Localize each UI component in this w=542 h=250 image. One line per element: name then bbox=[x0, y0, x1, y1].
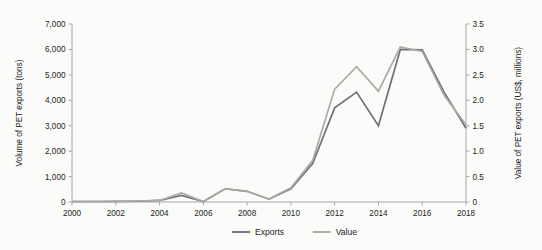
y2-tick-label: 2.0 bbox=[473, 96, 485, 105]
series-line-value bbox=[72, 47, 466, 202]
y2-axis-title: Value of PET exports (US$, millions) bbox=[514, 47, 523, 179]
x-tick-label: 2018 bbox=[457, 209, 476, 218]
y-tick-label: 1,000 bbox=[45, 173, 66, 182]
y-tick-label: 3,000 bbox=[45, 122, 66, 131]
y-tick-label: 4,000 bbox=[45, 96, 66, 105]
x-tick-label: 2014 bbox=[369, 209, 388, 218]
legend-label-value: Value bbox=[336, 227, 358, 237]
x-tick-label: 2010 bbox=[282, 209, 301, 218]
x-tick-label: 2006 bbox=[194, 209, 213, 218]
y2-tick-label: 3.0 bbox=[473, 45, 485, 54]
right-axis: 00.51.01.52.02.53.03.5 bbox=[466, 20, 484, 207]
y-tick-label: 6,000 bbox=[45, 45, 66, 54]
x-tick-label: 2004 bbox=[150, 209, 169, 218]
x-tick-label: 2016 bbox=[413, 209, 432, 218]
y2-tick-label: 1.5 bbox=[473, 122, 485, 131]
y2-tick-label: 1.0 bbox=[473, 147, 485, 156]
legend-label-exports: Exports bbox=[255, 227, 284, 237]
y-tick-label: 7,000 bbox=[45, 20, 66, 29]
x-axis: 2000200220042006200820102012201420162018 bbox=[63, 202, 476, 218]
y-tick-label: 5,000 bbox=[45, 71, 66, 80]
y2-tick-label: 0 bbox=[473, 198, 478, 207]
y2-tick-label: 3.5 bbox=[473, 20, 485, 29]
chart-canvas: 01,0002,0003,0004,0005,0006,0007,00000.5… bbox=[0, 0, 542, 250]
y-tick-label: 2,000 bbox=[45, 147, 66, 156]
left-axis: 01,0002,0003,0004,0005,0006,0007,000 bbox=[45, 20, 72, 207]
legend: ExportsValue bbox=[232, 227, 357, 237]
y2-tick-label: 2.5 bbox=[473, 71, 485, 80]
x-tick-label: 2012 bbox=[326, 209, 345, 218]
x-tick-label: 2008 bbox=[238, 209, 257, 218]
y2-tick-label: 0.5 bbox=[473, 173, 485, 182]
y-axis-title: Volume of PET exports (tons) bbox=[15, 59, 24, 166]
pet-exports-chart: 01,0002,0003,0004,0005,0006,0007,00000.5… bbox=[0, 0, 542, 250]
series-line-exports bbox=[72, 49, 466, 201]
x-tick-label: 2000 bbox=[63, 209, 82, 218]
y-tick-label: 0 bbox=[61, 198, 66, 207]
x-tick-label: 2002 bbox=[107, 209, 126, 218]
